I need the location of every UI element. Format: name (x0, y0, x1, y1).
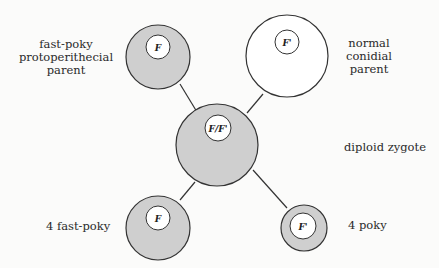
gene-label: F (154, 43, 162, 53)
zygote-label: diploid zygote (344, 141, 426, 154)
edge-parent2-zygote (247, 94, 263, 113)
label-line: parent (334, 63, 404, 76)
gene-label: F/F' (208, 124, 228, 134)
poky-progeny-cell: F' (281, 205, 327, 251)
edge-zygote-progeny1 (180, 182, 195, 200)
fast-poky-progeny-label: 4 fast-poky (46, 220, 110, 233)
normal-parent-cell: F' (246, 15, 328, 97)
label-line: parent (16, 64, 116, 77)
normal-parent-label: normal conidial parent (334, 37, 404, 76)
edge-parent1-zygote (180, 84, 197, 112)
fast-poky-parent-label: fast-poky protoperithecial parent (16, 38, 116, 77)
poky-progeny-label: 4 poky (348, 219, 387, 232)
gene-label: F' (297, 222, 307, 232)
fast-poky-progeny-cell: F (126, 196, 190, 260)
diploid-zygote-cell: F/F' (176, 104, 258, 186)
fast-poky-parent-cell: F (126, 25, 190, 89)
gene-label: F' (281, 38, 291, 48)
gene-label: F (154, 214, 162, 224)
edge-zygote-progeny2 (253, 170, 287, 208)
